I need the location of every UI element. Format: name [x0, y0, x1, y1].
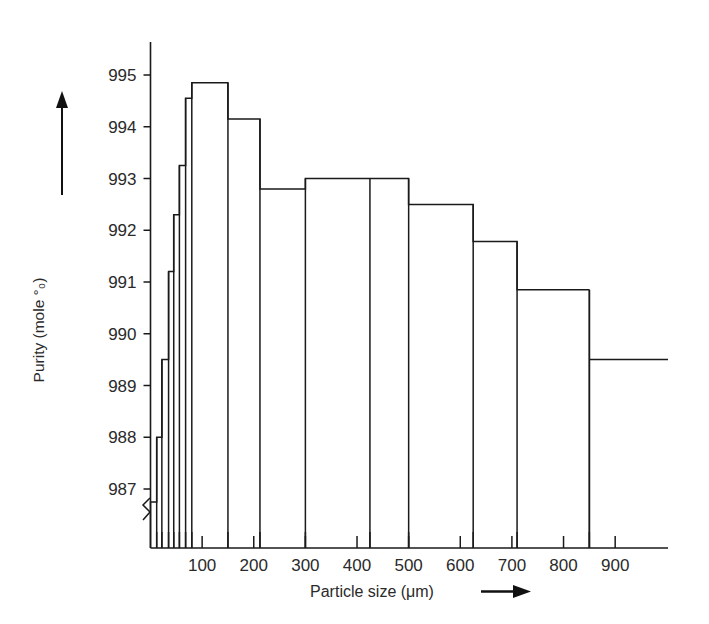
y-axis-ticks: [144, 75, 151, 489]
x-tick-label-500: 500: [394, 556, 422, 575]
y-tick-label-991: 991: [108, 273, 136, 292]
chart-figure: 987988989990991992993994995 100200300400…: [0, 0, 709, 624]
x-axis-ticks: [157, 532, 615, 548]
y-axis-title: Purity (mole °₀): [30, 278, 47, 383]
histogram-bars: [151, 83, 669, 548]
x-axis-title: Particle size (μm): [310, 583, 434, 600]
axis-break-symbol: [143, 498, 150, 520]
x-tick-label-400: 400: [343, 556, 371, 575]
purity-vs-particle-size-chart: 987988989990991992993994995 100200300400…: [0, 0, 709, 624]
y-axis-direction-arrow: [56, 91, 68, 195]
x-tick-label-300: 300: [291, 556, 319, 575]
y-tick-label-987: 987: [108, 480, 136, 499]
y-tick-label-995: 995: [108, 66, 136, 85]
x-axis-direction-arrow: [481, 585, 531, 598]
x-tick-label-600: 600: [446, 556, 474, 575]
y-tick-label-994: 994: [108, 118, 136, 137]
x-tick-label-900: 900: [601, 556, 629, 575]
y-axis-tick-labels: 987988989990991992993994995: [108, 66, 136, 499]
y-tick-label-993: 993: [108, 170, 136, 189]
x-tick-label-700: 700: [498, 556, 526, 575]
y-tick-label-992: 992: [108, 221, 136, 240]
x-tick-label-200: 200: [240, 556, 268, 575]
y-tick-label-989: 989: [108, 377, 136, 396]
y-tick-label-988: 988: [108, 428, 136, 447]
y-tick-label-990: 990: [108, 325, 136, 344]
x-axis-tick-labels: 100200300400500600700800900: [188, 556, 629, 575]
x-tick-label-800: 800: [549, 556, 577, 575]
x-tick-label-100: 100: [188, 556, 216, 575]
